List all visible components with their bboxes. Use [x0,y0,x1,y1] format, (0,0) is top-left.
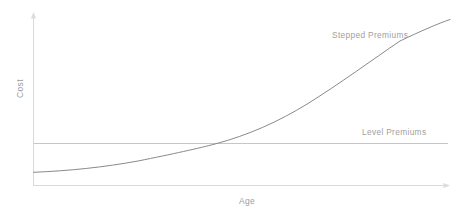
chart-container: Age Cost Stepped Premiums Level Premiums [0,0,470,224]
y-axis-label: Cost [15,82,25,98]
x-axis-label: Age [0,196,470,206]
series-label-level-premiums: Level Premiums [362,127,426,137]
series-line-stepped-premiums [34,20,451,173]
x-axis-arrowhead-icon [444,183,451,188]
series-label-stepped-premiums: Stepped Premiums [332,30,408,40]
y-axis-arrowhead-icon [31,12,36,19]
